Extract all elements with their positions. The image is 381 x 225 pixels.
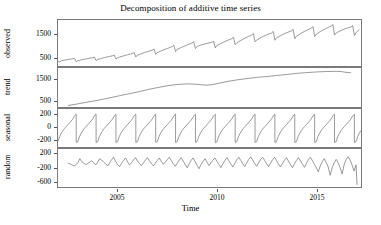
- y-tick-label-observed-0: 500: [25, 54, 51, 61]
- y-tick-mark-trend-1: [54, 79, 57, 80]
- y-tick-label-random-1: -200: [25, 164, 51, 171]
- panel-observed: [57, 19, 362, 67]
- seasonal-line: [58, 114, 361, 142]
- y-tick-mark-observed-1: [54, 34, 57, 35]
- y-tick-label-seasonal-0: -200: [25, 136, 51, 143]
- y-tick-label-random-2: 200: [25, 149, 51, 156]
- y-tick-label-random-0: -600: [25, 178, 51, 185]
- seasonal-series-svg: [58, 109, 361, 147]
- x-axis-title: Time: [0, 203, 381, 213]
- x-tick-label-0: 2005: [97, 193, 137, 202]
- x-tick-mark-0: [117, 189, 118, 192]
- decomposition-plot: Decomposition of additive time series ob…: [0, 0, 381, 225]
- y-tick-label-trend-0: 500: [25, 97, 51, 104]
- x-tick-mark-2: [317, 189, 318, 192]
- y-axis-label-observed: observed: [2, 20, 13, 67]
- x-tick-mark-1: [217, 189, 218, 192]
- y-tick-label-observed-1: 1500: [25, 30, 51, 37]
- panel-seasonal: [57, 108, 362, 148]
- y-tick-mark-random-2: [54, 153, 57, 154]
- observed-line: [58, 24, 359, 61]
- panel-trend: [57, 67, 362, 108]
- y-axis-label-seasonal: seasonal: [2, 107, 13, 147]
- random-line: [68, 157, 357, 185]
- chart-title: Decomposition of additive time series: [0, 3, 381, 13]
- y-tick-mark-seasonal-1: [54, 127, 57, 128]
- x-tick-label-1: 2010: [197, 193, 237, 202]
- y-axis-label-random: random: [2, 146, 13, 188]
- trend-series-svg: [58, 68, 361, 107]
- random-series-svg: [58, 149, 361, 187]
- y-tick-label-seasonal-2: 200: [25, 110, 51, 117]
- x-tick-label-2: 2015: [297, 193, 337, 202]
- y-tick-label-trend-1: 1500: [25, 75, 51, 82]
- panel-random: [57, 148, 362, 188]
- y-tick-mark-random-1: [54, 168, 57, 169]
- y-tick-mark-seasonal-0: [54, 140, 57, 141]
- y-tick-mark-random-0: [54, 182, 57, 183]
- y-axis-label-trend: trend: [2, 66, 13, 108]
- y-tick-mark-observed-0: [54, 58, 57, 59]
- trend-line: [68, 71, 351, 105]
- y-tick-mark-trend-0: [54, 101, 57, 102]
- y-tick-mark-seasonal-2: [54, 114, 57, 115]
- observed-series-svg: [58, 20, 361, 66]
- y-tick-label-seasonal-1: 0: [25, 123, 51, 130]
